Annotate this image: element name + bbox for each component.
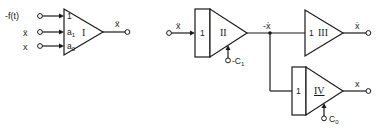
output-terminal-IV [366, 89, 371, 94]
arrow-icon [59, 30, 64, 35]
gain-III: 1 [309, 28, 314, 38]
left-circuit: -f(t) ẍ x 1 a1 a0 I ẍ [5, 9, 130, 55]
input-terminal-xddot [38, 30, 43, 35]
right-circuit: ẍ 1 II -C1 -ẋ 1 III ẋ 1 IV [167, 9, 371, 125]
ic-label-II: -C1 [232, 56, 245, 67]
arrow-icon [59, 44, 64, 49]
input-label-x: x [23, 42, 28, 52]
output-label-I: ẍ [115, 19, 120, 29]
input-label-xddot: ẍ [23, 28, 28, 38]
integrator-II-label: II [220, 27, 227, 38]
ic-label-IV: C0 [329, 114, 339, 125]
input-terminal-x [38, 44, 43, 49]
output-label-III: ẋ [355, 21, 360, 31]
output-terminal-III [366, 31, 371, 36]
gain-IV: 1 [296, 86, 301, 96]
amplifier-III-label: III [318, 27, 328, 38]
input-label-f: -f(t) [5, 11, 19, 21]
analog-computer-diagram: -f(t) ẍ x 1 a1 a0 I ẍ ẍ [0, 0, 385, 137]
gain-1: 1 [67, 11, 72, 21]
output-terminal-I [125, 30, 130, 35]
gain-II: 1 [200, 28, 205, 38]
output-label-IV: x [355, 79, 360, 89]
ic-terminal-IV [322, 116, 327, 121]
input-terminal-f [38, 14, 43, 19]
integrator-IV-label: IV [314, 85, 325, 96]
arrow-icon [190, 31, 195, 36]
input-label-II: ẍ [176, 21, 181, 31]
amplifier-I-label: I [82, 27, 85, 38]
arrow-icon [59, 14, 64, 19]
output-label-II: -ẋ [263, 21, 271, 31]
input-terminal-II [167, 31, 172, 36]
ic-terminal-II [226, 58, 231, 63]
